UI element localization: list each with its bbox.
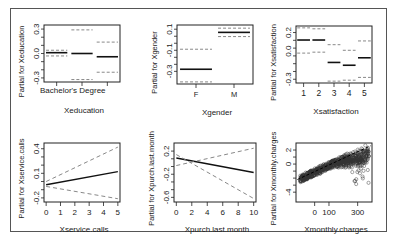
x-axis-label: Xgender bbox=[202, 108, 233, 117]
x-tick-label: 2 bbox=[316, 88, 321, 98]
x-tick-label: 1 bbox=[301, 88, 306, 98]
y-axis-label: Partial for Xeducation bbox=[17, 26, 26, 98]
y-tick-label: -0.3 bbox=[284, 72, 293, 86]
y-tick-label: -0.6 bbox=[162, 190, 171, 204]
y-tick-label: -0.2 bbox=[162, 167, 171, 181]
x-tick-label: M bbox=[231, 90, 237, 99]
x-tick-label: 0 bbox=[174, 208, 179, 217]
y-tick-label: 0.4 bbox=[32, 143, 41, 155]
x-tick-label: 2 bbox=[190, 208, 195, 217]
y-tick-label: -0.2 bbox=[32, 190, 41, 204]
plot-xsatisfaction: 0.20.0-0.3Partial for XsatisfactionXsati… bbox=[269, 24, 372, 116]
x-axis-label: Xservice.calls bbox=[60, 225, 109, 234]
x-tick-label: 300 bbox=[351, 208, 365, 217]
partial-effects-figure: 0.30.0-0.3Partial for XeducationXeducati… bbox=[0, 0, 394, 244]
plot-box bbox=[44, 143, 120, 202]
y-axis-label: Partial for Xgender bbox=[150, 31, 159, 94]
y-tick-label: -0.3 bbox=[32, 70, 41, 84]
y-axis-label: Partial for Xsatisfaction bbox=[269, 24, 278, 101]
x-tick-label: 6 bbox=[221, 208, 226, 217]
y-axis-label: Partial for Xpurch.last.month bbox=[147, 131, 156, 226]
plot-box bbox=[296, 26, 372, 83]
x-tick-label: 4 bbox=[101, 208, 106, 217]
y-tick-label: 0.1 bbox=[32, 167, 41, 179]
y-tick-label: 0.2 bbox=[284, 26, 293, 38]
y-tick-label: 0.2 bbox=[162, 145, 171, 157]
plot-xservice-calls: 0.40.1-0.2Partial for Xservice.callsXser… bbox=[17, 138, 121, 234]
x-axis-label: Xsatisfaction bbox=[313, 107, 358, 116]
x-tick-label: 10 bbox=[249, 208, 258, 217]
x-axis-label: Xmonthly.charges bbox=[304, 225, 367, 234]
y-tick-label: 0.1 bbox=[165, 23, 174, 35]
x-tick-label: 5 bbox=[362, 88, 367, 98]
y-tick-label: 0.0 bbox=[284, 45, 293, 57]
x-tick-label: 3 bbox=[332, 88, 337, 98]
y-tick-label: -4 bbox=[284, 188, 293, 196]
plot-box bbox=[177, 25, 253, 84]
x-tick-label: 0 bbox=[312, 208, 317, 217]
y-tick-label: -0.1 bbox=[165, 43, 174, 57]
x-tick-label: 8 bbox=[236, 208, 241, 217]
x-tick-label: 1 bbox=[58, 208, 63, 217]
y-tick-label: 0.0 bbox=[32, 47, 41, 59]
x-tick-label: 4 bbox=[205, 208, 210, 217]
y-tick-label: 2 bbox=[284, 147, 293, 152]
x-tick-label: 5 bbox=[116, 208, 121, 217]
x-axis-label: Xeducation bbox=[64, 106, 104, 115]
y-tick-label: 0.3 bbox=[32, 23, 41, 35]
x-tick-label: 2 bbox=[73, 208, 78, 217]
y-axis-label: Partial for Xmonthly.charges bbox=[269, 131, 278, 225]
x-axis-label: Xpurch.last.month bbox=[185, 225, 249, 234]
x-tick-label: 100 bbox=[322, 208, 336, 217]
y-axis-label: Partial for Xservice.calls bbox=[17, 138, 26, 218]
x-tick-label: 4 bbox=[347, 88, 352, 98]
x-tick-label: Bachelor's Degree bbox=[40, 86, 106, 95]
x-tick-label: 3 bbox=[87, 208, 92, 217]
y-tick-label: 0 bbox=[284, 161, 293, 166]
plot-xmonthly-charges: 20-4Partial for Xmonthly.chargesXmonthly… bbox=[269, 131, 372, 234]
x-tick-label: 0 bbox=[44, 208, 49, 217]
plot-xgender: 0.1-0.1-0.3Partial for XgenderXgenderFM bbox=[150, 23, 253, 117]
y-tick-label: -0.3 bbox=[165, 64, 174, 78]
x-tick-label: F bbox=[194, 90, 199, 99]
plot-xeducation: 0.30.0-0.3Partial for XeducationXeducati… bbox=[17, 23, 120, 115]
plot-xpurch-last-month: 0.2-0.2-0.6Partial for Xpurch.last.month… bbox=[147, 131, 259, 234]
